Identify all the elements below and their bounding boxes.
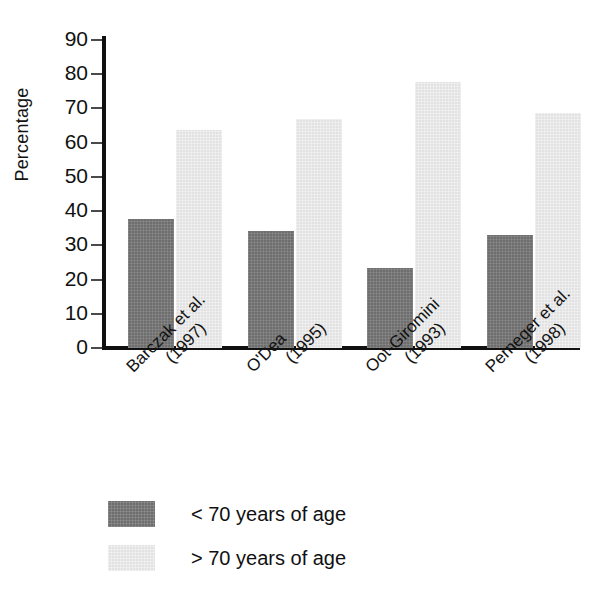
y-axis-tick-label-10: 10 bbox=[26, 302, 88, 323]
y-axis-tick-40 bbox=[91, 210, 102, 212]
y-axis-tick-label-0: 0 bbox=[26, 336, 88, 357]
legend-item-under70: < 70 years of age bbox=[108, 497, 448, 531]
y-axis-tick-label-50: 50 bbox=[26, 165, 88, 186]
y-axis-tick-label-30: 30 bbox=[26, 233, 88, 254]
y-axis-tick-label-80: 80 bbox=[26, 62, 88, 83]
legend-label-under70: < 70 years of age bbox=[191, 503, 346, 526]
y-axis-tick-label-20: 20 bbox=[26, 268, 88, 289]
y-axis-tick-label-60: 60 bbox=[26, 131, 88, 152]
legend-label-over70: > 70 years of age bbox=[191, 547, 346, 570]
y-axis-line bbox=[102, 36, 106, 350]
y-axis-tick-80 bbox=[91, 73, 102, 75]
legend-swatch-under70 bbox=[108, 501, 155, 527]
y-axis-tick-0 bbox=[91, 347, 102, 349]
chart-legend: < 70 years of age> 70 years of age bbox=[108, 497, 448, 585]
y-axis-tick-label-40: 40 bbox=[26, 199, 88, 220]
plot-area: 9080706050403020100 bbox=[102, 36, 580, 350]
y-axis-tick-10 bbox=[91, 313, 102, 315]
y-axis-tick-90 bbox=[91, 39, 102, 41]
y-axis-tick-30 bbox=[91, 244, 102, 246]
y-axis-tick-50 bbox=[91, 176, 102, 178]
y-axis-tick-label-70: 70 bbox=[26, 96, 88, 117]
y-axis-tick-70 bbox=[91, 107, 102, 109]
legend-swatch-over70 bbox=[108, 545, 155, 571]
legend-item-over70: > 70 years of age bbox=[108, 541, 448, 575]
y-axis-tick-label-90: 90 bbox=[26, 28, 88, 49]
bar-chart-figure: Percentage 9080706050403020100 Barczak e… bbox=[0, 0, 604, 600]
y-axis-tick-60 bbox=[91, 142, 102, 144]
y-axis-tick-20 bbox=[91, 279, 102, 281]
